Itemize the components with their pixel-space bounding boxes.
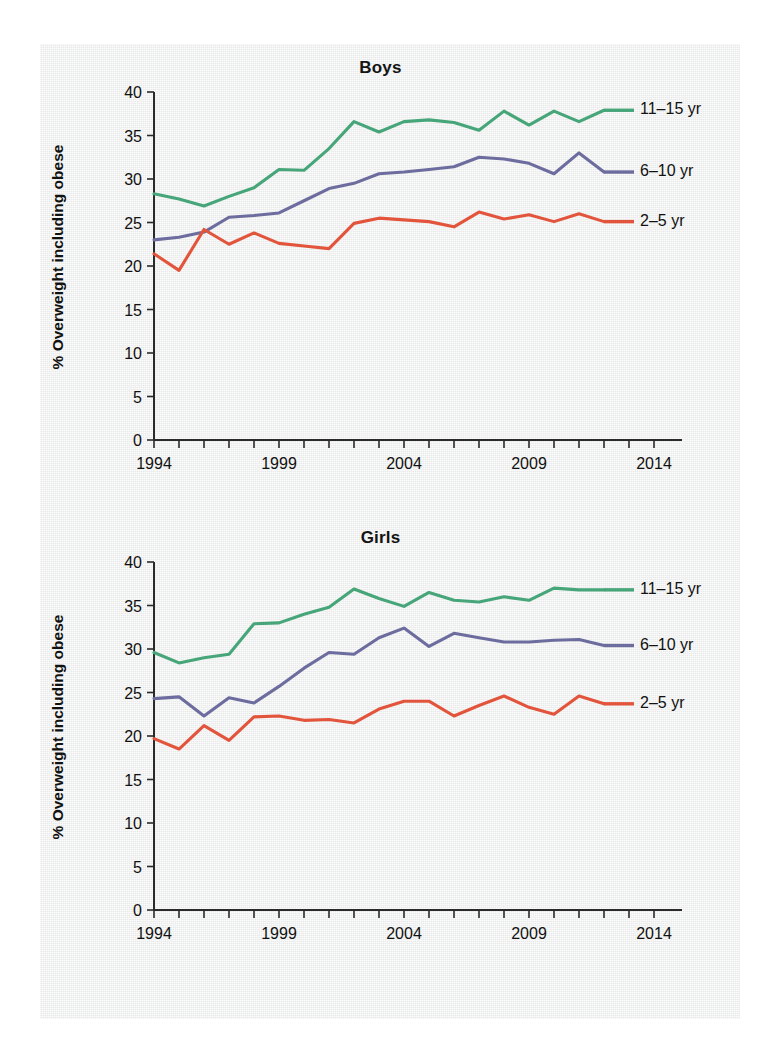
svg-text:40: 40 [124, 86, 142, 101]
svg-text:0: 0 [133, 902, 142, 919]
y-axis-label-boys: % Overweight including obese [49, 107, 67, 407]
svg-text:2004: 2004 [386, 925, 422, 942]
legend-label-2-5-girls: 2–5 yr [640, 694, 684, 712]
svg-text:40: 40 [124, 556, 142, 571]
svg-text:30: 30 [124, 171, 142, 188]
svg-text:5: 5 [133, 389, 142, 406]
chart-girls: Girls % Overweight including obese 05101… [0, 528, 761, 968]
svg-text:15: 15 [124, 772, 142, 789]
plot-area-girls: 051015202530354019941999200420092014 [108, 556, 748, 956]
svg-text:30: 30 [124, 641, 142, 658]
svg-text:0: 0 [133, 432, 142, 449]
chart-title-girls: Girls [0, 528, 761, 548]
svg-text:2009: 2009 [511, 455, 547, 472]
legend-label-2-5-boys: 2–5 yr [640, 212, 684, 230]
legend-label-6-10-girls: 6–10 yr [640, 636, 693, 654]
legend-label-11-15-girls: 11–15 yr [640, 580, 701, 598]
svg-text:10: 10 [124, 815, 142, 832]
y-axis-label-girls: % Overweight including obese [49, 577, 67, 877]
svg-text:2009: 2009 [511, 925, 547, 942]
legend-label-6-10-boys: 6–10 yr [640, 162, 693, 180]
svg-text:20: 20 [124, 728, 142, 745]
svg-text:20: 20 [124, 258, 142, 275]
chart-title-boys: Boys [0, 58, 761, 78]
svg-text:1994: 1994 [136, 455, 172, 472]
svg-text:35: 35 [124, 598, 142, 615]
svg-text:1999: 1999 [261, 455, 297, 472]
plot-area-boys: 051015202530354019941999200420092014 [108, 86, 748, 486]
svg-text:2004: 2004 [386, 455, 422, 472]
svg-text:35: 35 [124, 128, 142, 145]
svg-text:1994: 1994 [136, 925, 172, 942]
svg-text:25: 25 [124, 685, 142, 702]
svg-text:2014: 2014 [636, 925, 672, 942]
svg-text:2014: 2014 [636, 455, 672, 472]
svg-text:5: 5 [133, 859, 142, 876]
svg-text:1999: 1999 [261, 925, 297, 942]
svg-text:15: 15 [124, 302, 142, 319]
svg-text:25: 25 [124, 215, 142, 232]
chart-boys: Boys % Overweight including obese 051015… [0, 58, 761, 498]
legend-label-11-15-boys: 11–15 yr [640, 100, 701, 118]
svg-text:10: 10 [124, 345, 142, 362]
